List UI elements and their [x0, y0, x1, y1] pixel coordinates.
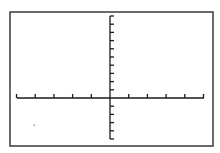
plotted-points	[34, 125, 36, 127]
stray-dot	[34, 125, 36, 127]
y-axis	[110, 16, 114, 139]
graph-screen	[0, 0, 220, 153]
